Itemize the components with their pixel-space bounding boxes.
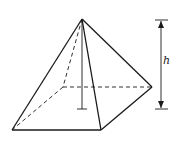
hidden-edge-apex-to-back-left xyxy=(63,19,82,87)
pyramid-figure: h xyxy=(0,0,178,142)
inner-height-line xyxy=(77,19,87,109)
edge-apex-to-front-left xyxy=(12,19,82,130)
pyramid-diagram: h xyxy=(0,0,178,142)
arrow-down-icon xyxy=(158,101,164,108)
height-label: h xyxy=(163,54,170,67)
arrow-up-icon xyxy=(158,21,164,28)
edge-front-right-to-back-right xyxy=(101,87,152,130)
edge-apex-to-front-right xyxy=(82,19,101,130)
hidden-edge-back-left-to-front-left xyxy=(12,87,63,130)
